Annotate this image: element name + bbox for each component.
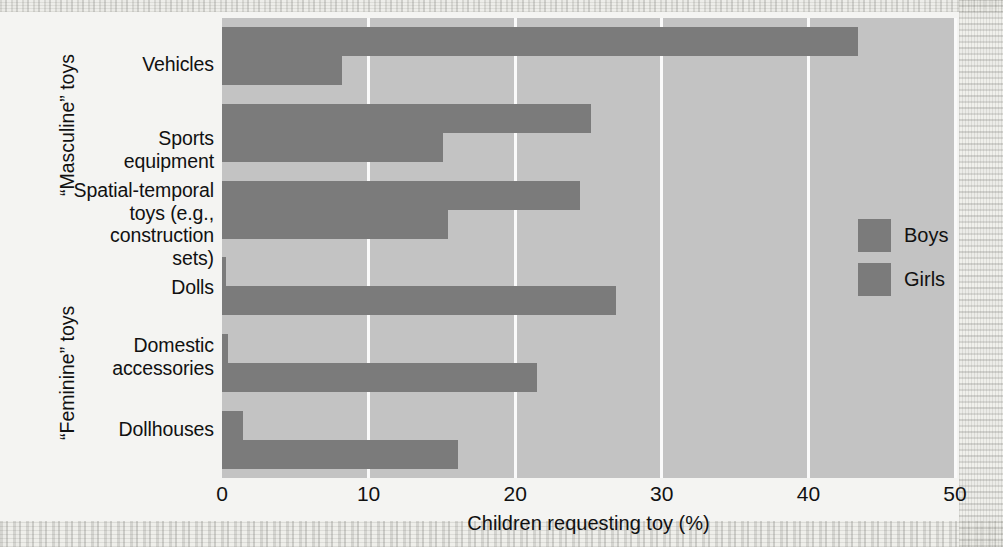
bar-girls-spatial-temporal-toys-e-g-construction-sets [222,210,448,239]
x-tick-label-20: 20 [504,482,527,506]
legend-swatch-girls [858,263,891,296]
x-tick-label-10: 10 [357,482,380,506]
category-label-domestic-accessories: Domestic accessories [18,334,214,379]
legend-item-boys: Boys [858,213,978,257]
scan-noise-top [0,0,1003,12]
bar-boys-dollhouses [222,411,243,440]
gridline-10 [367,18,370,478]
legend-label-girls: Girls [904,268,945,291]
category-label-dolls: Dolls [18,276,214,299]
gridline-40 [807,18,810,478]
gridline-20 [514,18,517,478]
bar-girls-dollhouses [222,440,458,469]
x-axis-title: Children requesting toy (%) [222,512,955,535]
bar-girls-dolls [222,286,616,315]
bar-girls-vehicles [222,56,342,85]
x-tick-label-50: 50 [943,482,966,506]
chart-page: “Masculine” toys “Feminine” toys Vehicle… [0,0,1003,547]
gridline-30 [660,18,663,478]
legend: Boys Girls [858,213,978,301]
bar-boys-vehicles [222,27,858,56]
x-tick-label-40: 40 [797,482,820,506]
legend-swatch-boys [858,219,891,252]
x-tick-label-30: 30 [650,482,673,506]
category-label-spatial-temporal-toys: Spatial-temporal toys (e.g., constructio… [18,179,214,269]
bar-girls-domestic-accessories [222,363,537,392]
category-label-column: Vehicles Sports equipment Spatial-tempor… [8,18,214,478]
legend-item-girls: Girls [858,257,978,301]
category-label-dollhouses: Dollhouses [18,418,214,441]
category-label-vehicles: Vehicles [18,53,214,76]
plot-area [222,18,955,478]
bar-boys-sports-equipment [222,104,591,133]
bar-boys-domestic-accessories [222,334,228,363]
legend-label-boys: Boys [904,224,948,247]
x-tick-label-0: 0 [216,482,228,506]
category-label-sports-equipment: Sports equipment [18,127,214,172]
bar-girls-sports-equipment [222,133,443,162]
bar-boys-dolls [222,257,226,286]
bar-boys-spatial-temporal-toys-e-g-construction-sets [222,181,580,210]
